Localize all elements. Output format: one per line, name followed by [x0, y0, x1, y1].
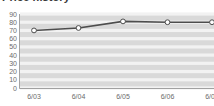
- chart-svg: 9080706050403020100 6/036/046/056/066/07: [0, 10, 214, 106]
- y-axis-tick-label: 20: [9, 68, 17, 75]
- y-axis-tick-label: 70: [9, 27, 17, 34]
- x-axis-tick-label: 6/07: [205, 93, 214, 100]
- plot-band-background: [20, 14, 214, 88]
- data-point-marker[interactable]: [165, 20, 170, 25]
- x-axis-tick-labels: 6/036/046/056/066/07: [27, 93, 214, 100]
- data-point-marker[interactable]: [121, 19, 126, 24]
- data-point-marker[interactable]: [76, 26, 81, 31]
- x-axis-tick-label: 6/05: [116, 93, 130, 100]
- y-axis-tick-label: 80: [9, 19, 17, 26]
- data-point-marker[interactable]: [32, 28, 37, 33]
- y-axis-tick-label: 0: [13, 85, 17, 92]
- gridline: [20, 78, 214, 81]
- gridline: [20, 70, 214, 73]
- gridline: [20, 54, 214, 57]
- y-axis-tick-label: 90: [9, 11, 17, 18]
- chart-title: Price history: [2, 0, 70, 3]
- y-axis-tick-labels: 9080706050403020100: [9, 11, 17, 92]
- data-point-marker[interactable]: [210, 20, 214, 25]
- y-axis-tick-label: 50: [9, 43, 17, 50]
- gridline: [20, 62, 214, 65]
- y-axis-tick-label: 10: [9, 76, 17, 83]
- y-axis-tick-label: 40: [9, 52, 17, 59]
- x-axis-tick-label: 6/03: [27, 93, 41, 100]
- x-axis-spine: [19, 88, 214, 89]
- gridline: [20, 45, 214, 48]
- price-history-chart: Price history 9080706050403020100 6/036/…: [0, 0, 214, 106]
- chart-plot-area: 9080706050403020100 6/036/046/056/066/07: [0, 10, 214, 106]
- y-axis-tick-label: 60: [9, 35, 17, 42]
- y-axis-line: [19, 14, 20, 88]
- gridline: [20, 37, 214, 40]
- y-axis-tick-label: 30: [9, 60, 17, 67]
- gridline: [20, 12, 214, 15]
- y-axis-spine: [19, 14, 20, 88]
- x-axis-line: [19, 88, 214, 89]
- x-axis-tick-label: 6/04: [72, 93, 86, 100]
- x-axis-tick-label: 6/06: [161, 93, 175, 100]
